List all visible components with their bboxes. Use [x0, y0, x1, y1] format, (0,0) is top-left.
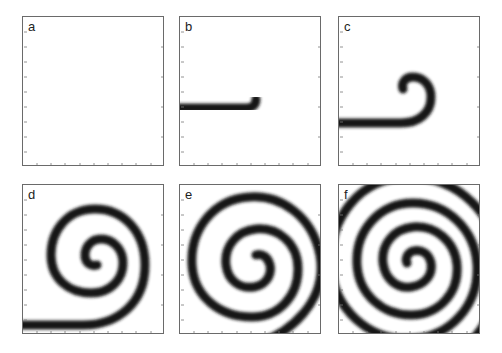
- panel-c: c: [338, 16, 480, 166]
- wave-pattern-d: [23, 185, 164, 334]
- panel-d: d: [22, 184, 164, 334]
- wave-pattern-b: [180, 17, 321, 166]
- panel-f: f: [338, 184, 480, 334]
- panel-label-f: f: [344, 188, 348, 201]
- panel-label-e: e: [185, 188, 192, 201]
- panel-label-a: a: [28, 20, 35, 33]
- wave-pattern-f: [339, 185, 480, 334]
- panel-a: a: [22, 16, 164, 166]
- panel-b: b: [179, 16, 321, 166]
- panel-label-c: c: [344, 20, 351, 33]
- panel-label-d: d: [28, 188, 35, 201]
- wave-pattern-e: [180, 185, 321, 334]
- wave-pattern-a: [23, 17, 164, 166]
- panel-label-b: b: [185, 20, 192, 33]
- wave-pattern-c: [339, 17, 480, 166]
- panel-e: e: [179, 184, 321, 334]
